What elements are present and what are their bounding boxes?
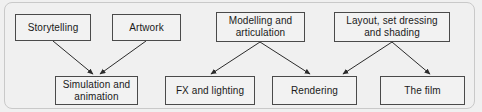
edge-layout-to-thefilm: [392, 42, 430, 74]
node-modelling: Modelling and articulation: [216, 12, 305, 42]
edge-storytelling-to-simulation: [53, 41, 93, 74]
node-simulation: Simulation and animation: [55, 76, 138, 105]
edge-artwork-to-simulation: [100, 41, 146, 74]
node-thefilm: The film: [380, 76, 465, 105]
node-layout: Layout, set dressing and shading: [334, 12, 450, 42]
node-artwork: Artwork: [112, 14, 181, 41]
edge-modelling-to-rendering: [260, 42, 310, 74]
edge-modelling-to-fx: [211, 42, 260, 74]
diagram-canvas: StorytellingArtworkModelling and articul…: [0, 0, 482, 112]
node-storytelling: Storytelling: [15, 14, 91, 41]
node-rendering: Rendering: [272, 76, 357, 105]
node-fx: FX and lighting: [165, 76, 255, 105]
edge-layout-to-rendering: [343, 42, 392, 74]
